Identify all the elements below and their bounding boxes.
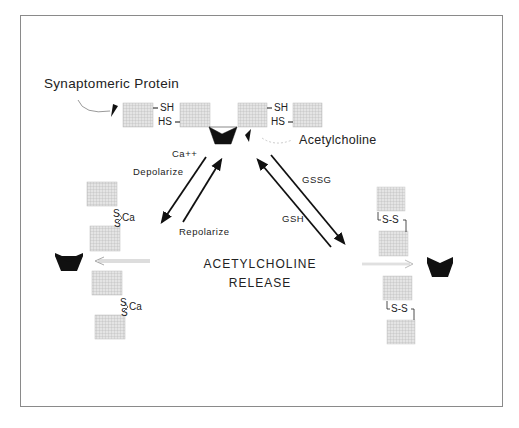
right-ss-2: S-S [391,303,408,314]
gssg-label: GSSG [302,174,331,185]
right-ss-1: S-S [382,214,399,225]
protein-subunit [90,226,120,251]
bond-sh-1: SH [160,102,174,113]
protein-subunit [87,182,117,206]
protein-subunit [293,103,322,127]
protein-subunit [387,320,415,344]
top-protein-row [123,103,322,127]
left-ca-1: Ca [122,212,135,223]
protein-subunit [123,103,153,127]
gsh-label: GSH [282,213,304,224]
protein-subunit [238,103,267,127]
bond-hs-2: HS [271,116,285,127]
acetylcholine-pointer [262,138,292,143]
receptor-left-icon [55,256,83,271]
acetylcholine-wedge-icon [245,129,251,142]
left-s-bot-2: S [121,307,128,318]
acetylcholine-release-label: ACETYLCHOLINE RELEASE [190,255,330,293]
repolarize-label: Repolarize [179,226,229,237]
synaptomeric-pointer [78,100,110,112]
left-ca-2: Ca [129,301,142,312]
acetylcholine-label: Acetylcholine [299,133,377,147]
left-release-arrow [95,257,150,265]
center-line-2: RELEASE [190,274,330,293]
synaptomeric-arrowhead-icon [111,104,118,117]
left-s-bot-1: S [114,218,121,229]
synaptomeric-protein-label: Synaptomeric Protein [44,76,179,91]
depolarize-label: Depolarize [133,166,183,177]
protein-subunit [95,315,125,339]
receptor-top-icon [209,127,237,144]
repolarize-arrow [183,160,221,222]
protein-subunit [180,103,210,127]
protein-subunit [379,231,408,256]
ca-label: Ca++ [172,148,197,159]
gssg-arrow [271,155,344,243]
diagram-canvas [0,0,519,428]
right-release-arrow [362,260,413,268]
protein-subunit [92,271,122,295]
center-line-1: ACETYLCHOLINE [190,255,330,274]
protein-subunit [377,187,405,211]
protein-subunit [383,276,412,300]
bond-sh-2: SH [274,102,288,113]
bond-hs-1: HS [158,116,172,127]
